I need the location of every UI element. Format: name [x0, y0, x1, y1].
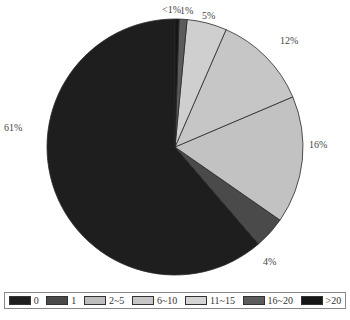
legend-item-1: 1 [46, 295, 76, 306]
label-6-10: 12% [280, 35, 298, 46]
legend-swatch [84, 296, 106, 305]
legend-swatch [185, 296, 207, 305]
chart-legend: 0 1 2~5 6~10 11~15 16~20 >20 [4, 292, 346, 309]
legend-swatch [243, 296, 265, 305]
legend-swatch [132, 296, 154, 305]
legend-swatch [46, 296, 68, 305]
legend-swatch [301, 296, 323, 305]
legend-item-2-5: 2~5 [84, 295, 124, 306]
label-1: 4% [263, 256, 276, 267]
label-gt-20: <1% [162, 4, 181, 15]
legend-item-11-15: 11~15 [185, 295, 235, 306]
label-11-15: 5% [202, 10, 215, 21]
legend-item-gt-20: >20 [301, 295, 342, 306]
legend-item-0: 0 [9, 295, 39, 306]
legend-item-16-20: 16~20 [243, 295, 293, 306]
legend-swatch [9, 296, 31, 305]
legend-item-6-10: 6~10 [132, 295, 177, 306]
label-0: 61% [4, 122, 22, 133]
label-16-20: 1% [180, 5, 193, 16]
label-2-5: 16% [309, 139, 327, 150]
